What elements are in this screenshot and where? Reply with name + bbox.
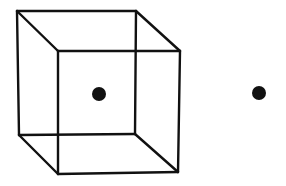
back-left-edge — [17, 11, 19, 135]
front-bottom-edge — [58, 172, 178, 174]
front-right-edge — [178, 51, 180, 172]
dot-outside-cube — [252, 86, 266, 100]
dot-inside-cube — [92, 87, 106, 101]
back-bottom-edge — [19, 134, 135, 135]
connector-bottom-right — [135, 134, 178, 172]
cube-diagram — [0, 0, 286, 186]
back-right-edge — [135, 11, 136, 134]
connector-top-left — [17, 11, 58, 51]
connector-top-right — [136, 11, 180, 51]
figure — [0, 0, 286, 186]
connector-bottom-left — [19, 135, 58, 174]
